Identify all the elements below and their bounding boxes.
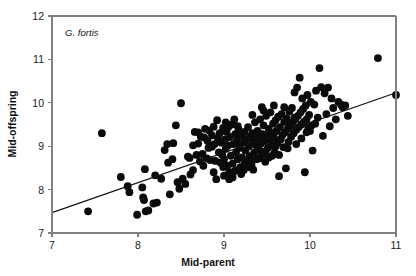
data-point <box>222 118 230 126</box>
data-point <box>234 122 242 130</box>
x-axis-title: Mid-parent <box>181 256 235 268</box>
data-point <box>138 184 146 192</box>
data-point <box>144 207 152 215</box>
x-tick-label: 7 <box>49 239 55 251</box>
x-tick-label: 11 <box>391 239 402 251</box>
x-axis-ticks: 7891011 <box>49 233 402 251</box>
species-annotation: G. fortis <box>65 27 99 38</box>
data-points-layer <box>84 54 400 218</box>
data-point <box>324 84 332 92</box>
data-point <box>341 102 349 110</box>
data-point <box>304 91 312 99</box>
y-tick-label: 8 <box>38 184 44 196</box>
data-point <box>296 74 304 82</box>
data-point <box>169 139 177 147</box>
data-point <box>316 64 324 72</box>
x-tick-label: 10 <box>304 239 316 251</box>
chart-canvas: 789101112 7891011 G. fortis Mid-parent M… <box>0 0 416 276</box>
data-point <box>319 132 327 140</box>
data-point <box>270 102 278 110</box>
data-point <box>213 116 221 124</box>
data-point <box>272 142 280 150</box>
x-tick-label: 9 <box>221 239 227 251</box>
data-point <box>249 166 257 174</box>
data-point <box>305 111 313 119</box>
data-point <box>280 103 288 111</box>
y-axis-ticks: 789101112 <box>32 10 52 239</box>
data-point <box>181 180 189 188</box>
data-point <box>288 104 296 112</box>
data-point <box>189 166 197 174</box>
data-point <box>140 196 148 204</box>
data-point <box>98 129 106 137</box>
data-point <box>210 168 218 176</box>
data-point <box>292 140 300 148</box>
data-point <box>229 174 237 182</box>
data-point <box>220 172 228 180</box>
data-point <box>326 122 334 130</box>
data-point <box>344 112 352 120</box>
data-point <box>251 131 259 139</box>
y-axis-title: Mid-offspring <box>6 90 18 157</box>
data-point <box>208 131 216 139</box>
y-tick-label: 9 <box>38 140 44 152</box>
data-point <box>237 170 245 178</box>
y-tick-label: 7 <box>38 227 44 239</box>
data-point <box>261 158 269 166</box>
data-point <box>248 111 256 119</box>
scatter-plot-figure: 789101112 7891011 G. fortis Mid-parent M… <box>0 0 416 276</box>
data-point <box>293 84 301 92</box>
data-point <box>166 190 174 198</box>
data-point <box>328 95 336 103</box>
data-point <box>212 175 220 183</box>
data-point <box>301 168 309 176</box>
data-point <box>268 152 276 160</box>
data-point <box>275 172 283 180</box>
data-point <box>260 107 268 115</box>
data-point <box>230 115 238 123</box>
data-point <box>291 114 299 122</box>
data-point <box>169 155 177 163</box>
y-tick-label: 12 <box>32 10 44 22</box>
y-tick-label: 11 <box>33 53 44 65</box>
data-point <box>309 147 317 155</box>
regression-line <box>52 93 396 213</box>
data-point <box>205 144 213 152</box>
data-point <box>374 54 382 62</box>
data-point <box>186 154 194 162</box>
data-point <box>267 108 275 116</box>
data-point <box>141 165 149 173</box>
data-point <box>84 207 92 215</box>
data-point <box>219 163 227 171</box>
data-point <box>177 99 185 107</box>
x-tick-label: 8 <box>135 239 141 251</box>
data-point <box>303 128 311 136</box>
data-point <box>275 151 283 159</box>
data-point <box>199 162 207 170</box>
data-point <box>153 199 161 207</box>
data-point <box>284 144 292 152</box>
data-point <box>172 121 180 129</box>
data-point <box>125 188 133 196</box>
data-point <box>310 101 318 109</box>
data-point <box>194 128 202 136</box>
y-tick-label: 10 <box>32 97 44 109</box>
data-point <box>194 140 202 148</box>
data-point <box>117 173 125 181</box>
data-point <box>133 211 141 219</box>
data-point <box>282 164 290 172</box>
data-point <box>332 115 340 123</box>
data-point <box>329 104 337 112</box>
